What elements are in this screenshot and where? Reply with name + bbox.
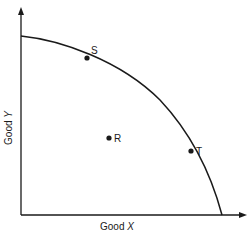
point-t [188,148,193,153]
point-r-label: R [114,133,121,144]
x-axis-arrow-icon [239,212,247,218]
y-axis-arrow-icon [18,7,24,15]
point-t-label: T [196,146,202,157]
point-r [106,135,111,140]
x-axis-label: Good X [100,221,134,232]
ppf-curve [21,36,222,215]
point-s-label: S [91,45,98,56]
point-s [84,55,89,60]
ppf-diagram: S R T Good X Good Y [0,0,252,233]
y-axis-label: Good Y [3,110,14,145]
